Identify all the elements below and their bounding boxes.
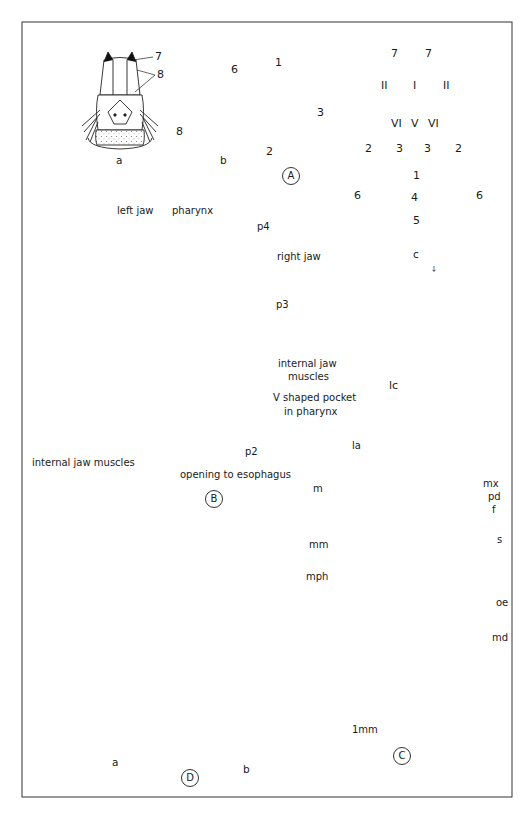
panel-a-b-callout-3: 3	[317, 107, 324, 118]
panel-c-scale-bar-label: 1mm	[352, 724, 378, 735]
panel-b-label-p3: p3	[276, 299, 289, 310]
panel-c-label-pd: pd	[488, 491, 501, 502]
panel-a-c-sublabel: c	[413, 249, 419, 260]
panel-a-c-region-2-left: 2	[365, 143, 372, 154]
panel-b-label-opening-esophagus: opening to esophagus	[180, 469, 291, 480]
panel-a-c-region-7-left: 7	[391, 48, 398, 59]
panel-a-b-callout-6: 6	[231, 64, 238, 75]
panel-c-label-la: la	[352, 440, 361, 451]
panel-b-label-p2: p2	[245, 446, 258, 457]
panel-a-a-sublabel: a	[116, 155, 122, 166]
panel-a-c-region-6-left: 6	[354, 190, 361, 201]
panel-b-id: B	[205, 490, 223, 508]
panel-a-c-region-5: 5	[413, 215, 420, 226]
panel-b-label-v-pocket-1: V shaped pocket	[273, 392, 356, 403]
panel-c-label-f: f	[492, 504, 496, 515]
panel-a-b-callout-8: 8	[176, 126, 183, 137]
panel-a-id: A	[282, 167, 300, 185]
panel-c-label-mph: mph	[306, 571, 328, 582]
panel-a-c-region-1: 1	[413, 170, 420, 181]
panel-c-label-mm: mm	[309, 539, 328, 550]
panel-a-b-callout-1: 1	[275, 57, 282, 68]
panel-b-label-left-jaw: left jaw	[117, 205, 153, 216]
panel-b-label-p4: p4	[257, 221, 270, 232]
panel-b-label-internal-jaw-right-1: internal jaw	[278, 358, 337, 369]
panel-d-id: D	[181, 769, 199, 787]
panel-b-label-pharynx: pharynx	[172, 205, 213, 216]
panel-a-c-stray-mark: ⸸	[432, 264, 436, 275]
panel-c-label-mx: mx	[483, 478, 499, 489]
panel-a-a-callout-7: 7	[155, 51, 162, 62]
panel-d-b-sublabel: b	[243, 764, 250, 775]
panel-a-c-region-3-left: 3	[396, 143, 403, 154]
figure-plate	[0, 0, 531, 822]
panel-a-c-region-3-right: 3	[424, 143, 431, 154]
panel-c-label-md: md	[492, 632, 508, 643]
panel-c-label-lc: lc	[389, 380, 398, 391]
panel-a-c-region-6-right: 6	[476, 190, 483, 201]
panel-c-label-oe: oe	[496, 597, 508, 608]
panel-a-c-region-II-right: II	[443, 80, 450, 91]
panel-b-label-right-jaw: right jaw	[277, 251, 321, 262]
panel-d-a-sublabel: a	[112, 757, 118, 768]
panel-a-subfig-a-drawing	[82, 52, 158, 149]
panel-a-c-region-VI-left: VI	[391, 118, 402, 129]
panel-b-label-internal-jaw-left: internal jaw muscles	[32, 457, 135, 468]
panel-a-a-callout-8: 8	[157, 69, 164, 80]
panel-b-label-v-pocket-2: in pharynx	[284, 406, 337, 417]
panel-a-c-region-VI-right: VI	[428, 118, 439, 129]
panel-a-c-region-7-right: 7	[425, 48, 432, 59]
panel-c-id: C	[393, 747, 411, 765]
panel-a-c-region-V: V	[411, 118, 419, 129]
panel-c-label-m: m	[313, 483, 323, 494]
panel-a-c-region-4: 4	[411, 192, 418, 203]
panel-c-label-s: s	[497, 534, 502, 545]
panel-a-c-region-2-right: 2	[455, 143, 462, 154]
panel-a-b-sublabel: b	[220, 155, 227, 166]
panel-b-label-internal-jaw-right-2: muscles	[288, 371, 329, 382]
panel-a-b-callout-2: 2	[266, 146, 273, 157]
panel-a-c-region-II-left: II	[381, 80, 388, 91]
panel-a-c-region-I: I	[413, 80, 416, 91]
